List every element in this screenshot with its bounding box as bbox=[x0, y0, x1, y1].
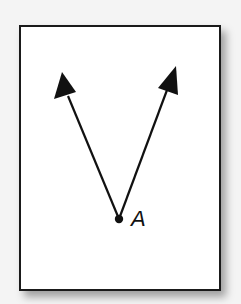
left-ray bbox=[54, 72, 119, 219]
angle-diagram bbox=[0, 0, 241, 304]
left-arrowhead-icon bbox=[54, 72, 76, 99]
right-arrowhead-icon bbox=[158, 66, 178, 95]
vertex-point bbox=[115, 215, 123, 223]
right-ray bbox=[119, 66, 178, 219]
vertex-label: A bbox=[131, 208, 146, 230]
